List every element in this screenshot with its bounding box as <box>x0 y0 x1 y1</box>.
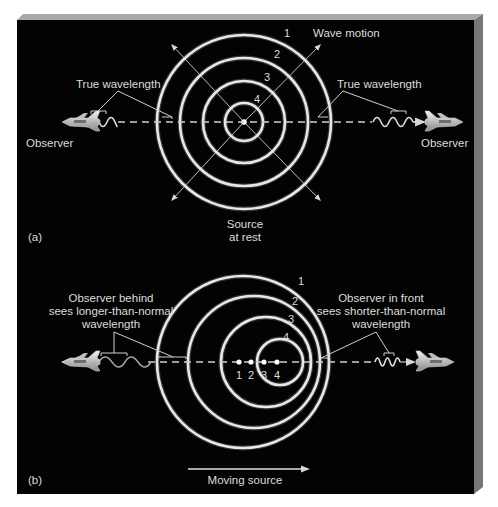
source-position-dot-4 <box>274 359 279 364</box>
panel-b-label: (b) <box>28 474 42 486</box>
panel-right-bevel <box>474 14 483 494</box>
true-wavelength-label-left: True wavelength <box>76 78 161 90</box>
wavefront-number-4: 4 <box>254 93 260 105</box>
source-position-number-2: 2 <box>248 369 254 381</box>
wavefront-b-number-4: 4 <box>283 331 289 343</box>
source-position-dot-2 <box>248 359 253 364</box>
observer-behind-label-line3: wavelength <box>81 318 140 330</box>
panel-top-bevel <box>17 14 483 20</box>
observer-in-front-label-line1: Observer in front <box>338 292 424 304</box>
source-position-number-3: 3 <box>261 369 267 381</box>
observer-behind-label-line1: Observer behind <box>68 292 153 304</box>
moving-source-label: Moving source <box>208 474 283 486</box>
observer-behind-label-line2: sees longer-than-normal <box>49 305 174 317</box>
wavefront-b-number-1: 1 <box>298 275 304 287</box>
wavefront-number-1: 1 <box>284 27 290 39</box>
wavefront-number-2: 2 <box>274 48 280 60</box>
true-wavelength-label-right: True wavelength <box>337 78 422 90</box>
source-position-number-4: 4 <box>274 369 280 381</box>
source-position-dot-3 <box>261 359 266 364</box>
doppler-effect-figure: 1 2 3 4 Wave motion True wavelength Obse… <box>0 0 498 507</box>
observer-label-right-a: Observer <box>421 137 468 149</box>
source-at-rest-label-line1: Source <box>227 218 263 230</box>
observer-in-front-label-line3: wavelength <box>351 318 410 330</box>
wave-motion-label: Wave motion <box>313 27 380 39</box>
wavefront-number-3: 3 <box>264 71 270 83</box>
wavefront-b-number-2: 2 <box>292 295 298 307</box>
observer-in-front-label-line2: sees shorter-than-normal <box>317 305 445 317</box>
source-position-number-1: 1 <box>236 369 242 381</box>
panel-a-label: (a) <box>28 231 42 243</box>
observer-label-left-a: Observer <box>26 137 73 149</box>
panel-background <box>17 20 474 494</box>
wavefront-b-number-3: 3 <box>288 313 294 325</box>
source-position-dot-1 <box>236 359 241 364</box>
source-at-rest-label-line2: at rest <box>229 231 262 243</box>
